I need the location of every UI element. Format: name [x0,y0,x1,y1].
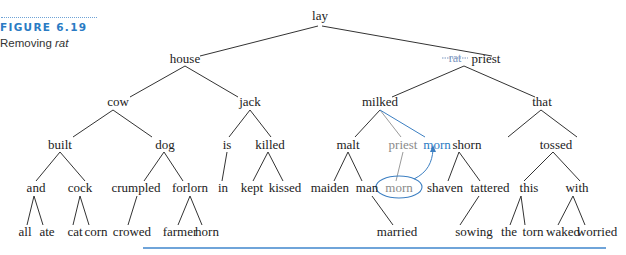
node-milked: milked [362,94,399,109]
edge-built-and [36,152,60,181]
edge-priest-that [464,66,535,97]
edge-milked-priest-removed [380,110,401,137]
node-married: married [377,224,418,239]
node-cow: cow [107,94,129,109]
edge-with-waked [558,196,573,225]
edge-forlorn-horn [190,196,202,225]
edge-house-cow [130,66,185,97]
edge-that-shorn [508,110,541,137]
edge-killed-kept [253,152,268,181]
tree-nodes: lay house rat priest cow jack milked tha… [19,8,618,239]
edge-this-the [510,196,521,225]
tree-edges [27,26,585,225]
node-maiden: maiden [311,180,350,195]
node-house: house [170,51,201,66]
edge-dog-forlorn [164,152,183,181]
edge-lay-priest [322,26,492,56]
edge-cow-built [73,110,113,137]
edge-shorn-tattered [459,152,480,181]
node-killed: killed [255,137,285,152]
edge-tossed-with [553,152,580,181]
edge-cock-cat [73,196,80,225]
node-lay: lay [312,8,328,23]
node-in: in [218,180,229,195]
node-morn-moved: morn [423,137,451,152]
edge-tossed-this [524,152,553,181]
node-malt: malt [336,137,359,152]
node-built: built [48,137,72,152]
edge-and-ate [34,196,43,225]
edge-man-married [372,196,393,225]
node-dog: dog [155,137,175,152]
node-waked: waked [546,224,580,239]
edge-forlorn-farmer [178,196,190,225]
edge-shorn-shaven [448,152,459,181]
edge-cow-dog [113,110,152,137]
edge-this-torn [521,196,525,225]
edge-priest-morn-removed [396,152,403,181]
edge-cock-corn [80,196,89,225]
binary-search-tree-diagram: lay house rat priest cow jack milked tha… [0,0,626,255]
edge-with-worried [573,196,585,225]
edge-tattered-sowing [460,196,479,225]
node-shaven: shaven [427,180,464,195]
edge-malt-man [348,152,362,181]
edge-lay-house [200,26,318,56]
node-shorn: shorn [453,137,482,152]
edge-killed-kissed [268,152,283,181]
node-forlorn: forlorn [172,180,209,195]
edge-that-tossed [541,110,577,137]
node-farmer: farmer [163,224,198,239]
edge-priest-milked [392,66,464,97]
edge-dog-crumpled [144,152,164,181]
node-horn: horn [195,224,219,239]
node-tattered: tattered [471,180,510,195]
node-morn-removed: morn [385,180,413,195]
node-jack: jack [238,94,261,109]
node-kept: kept [241,180,264,195]
node-is: is [223,137,232,152]
node-sowing: sowing [455,224,493,239]
node-crowed: crowed [113,224,152,239]
edge-built-cock [60,152,85,181]
node-this: this [520,180,539,195]
node-the: the [501,224,517,239]
edge-crumpled-crowed [128,196,137,225]
node-priest-replacement: priest [472,51,501,66]
node-cock: cock [68,180,93,195]
node-priest-removed: priest [389,137,418,152]
edge-malt-maiden [334,152,348,181]
move-arrow-path [414,150,433,179]
node-torn: torn [523,224,544,239]
edge-milked-malt [355,110,380,137]
node-and: and [27,180,46,195]
edge-and-all [27,196,34,225]
node-that: that [532,94,552,109]
node-tossed: tossed [540,137,573,152]
node-all: all [19,224,32,239]
edge-jack-killed [250,110,271,137]
edge-house-jack [185,66,238,97]
node-ate: ate [39,224,54,239]
node-worried: worried [577,224,618,239]
edge-jack-is [229,110,250,137]
node-kissed: kissed [269,180,302,195]
node-crumpled: crumpled [111,180,161,195]
node-with: with [565,180,589,195]
edge-milked-morn-new [380,110,425,137]
node-cat: cat [67,224,83,239]
node-corn: corn [84,224,108,239]
node-man: man [356,180,379,195]
edge-is-in [222,152,227,181]
